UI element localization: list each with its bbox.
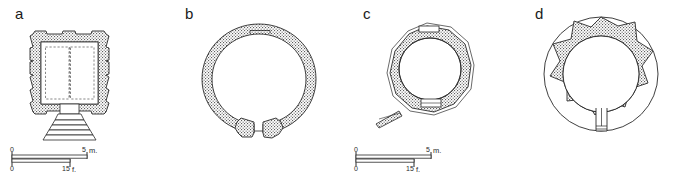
scale-metric-start: 0 [10, 146, 14, 153]
figure-plate: 0 5 m. 0 15 f. [0, 0, 692, 177]
panel-b: 0 5 m. 0 15 f. [172, 0, 347, 177]
plan-drawing-b [172, 0, 347, 150]
ring-wall-b [202, 24, 316, 138]
plan-drawing-a [0, 0, 175, 150]
plan-drawing-c [343, 0, 515, 150]
scale-imperial-end: 15 [62, 165, 70, 172]
panel-label-a: a [15, 6, 23, 21]
panel-label-b: b [185, 6, 193, 21]
panel-a: 0 5 m. 0 15 f. [0, 0, 175, 177]
panel-label-c: c [363, 6, 371, 21]
plan-drawing-d [512, 0, 692, 150]
south-passage-d [596, 108, 607, 131]
panel-d: 0 5 m. 0 15 f. [512, 0, 692, 177]
scale-metric-end: 5 [82, 146, 86, 153]
scale-bar-a: 0 5 m. 0 15 f. [8, 143, 108, 175]
panel-c: 0 5 m. 0 15 f. [343, 0, 515, 177]
polygonal-ring-wall-c [387, 23, 474, 115]
panel-label-d: d [535, 6, 543, 21]
scale-imperial-unit: f. [72, 165, 76, 174]
scale-metric-unit: m. [89, 146, 97, 155]
scale-imperial-start: 0 [10, 165, 14, 172]
inner-chamber-a [41, 42, 98, 104]
projecting-wall-stub-c [376, 111, 402, 128]
